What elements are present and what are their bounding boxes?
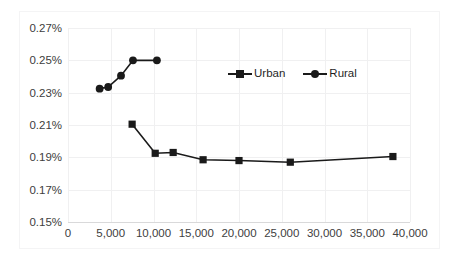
x-axis-tick-label: 40,000 [392,228,427,240]
legend-item-urban[interactable]: Urban [228,68,285,80]
legend-square-marker-icon [228,68,252,80]
gridline-vertical [239,28,240,222]
y-axis-tick-label: 0.15% [29,217,62,229]
y-axis-tick-label: 0.23% [29,88,62,100]
legend-label-rural: Rural [329,68,356,80]
legend-circle-marker-icon [303,68,327,80]
x-axis-tick-label: 35,000 [350,228,385,240]
chart-legend: Urban Rural [228,66,357,82]
y-axis-tick-label: 0.27% [29,23,62,35]
x-axis-tick-label: 25,000 [264,228,299,240]
x-axis-tick-label: 20,000 [221,228,256,240]
legend-item-rural[interactable]: Rural [303,68,356,80]
gridline-vertical [111,28,112,222]
gridline-vertical [367,28,368,222]
legend-label-urban: Urban [254,68,285,80]
gridline-vertical [154,28,155,222]
gridline-vertical [325,28,326,222]
x-axis-tick-label: 5,000 [96,228,125,240]
y-axis-tick-label: 0.19% [29,152,62,164]
gridline-vertical [196,28,197,222]
gridline-vertical [282,28,283,222]
x-axis-tick-label: 10,000 [136,228,171,240]
x-axis-tick-label: 30,000 [307,228,342,240]
x-axis-line [68,222,410,223]
y-axis-tick-label: 0.25% [29,55,62,67]
plot-area [68,28,410,222]
x-axis-tick-label: 15,000 [179,228,214,240]
y-axis-tick-label: 0.21% [29,120,62,132]
gridline-vertical [410,28,411,222]
y-axis-tick-labels: 0.27%0.25%0.23%0.21%0.19%0.17%0.15% [0,0,62,261]
chart-container: 0.27%0.25%0.23%0.21%0.19%0.17%0.15% 05,0… [0,0,459,261]
gridline-vertical [68,28,69,222]
x-axis-tick-label: 0 [65,228,71,240]
y-axis-tick-label: 0.17% [29,185,62,197]
